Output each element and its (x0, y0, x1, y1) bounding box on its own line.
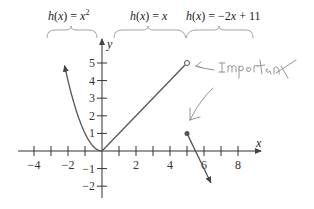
closed-point (185, 131, 190, 136)
y-tick-label: 2 (89, 109, 95, 123)
y-axis-label: y (106, 37, 113, 51)
handwritten-text-important (219, 60, 296, 78)
open-point (185, 61, 190, 66)
curve-piece-2 (102, 65, 185, 151)
y-tick-label: 5 (89, 56, 95, 70)
x-tick-label: 2 (133, 158, 139, 172)
curve-piece-3 (187, 133, 211, 182)
x-tick-label: 8 (235, 158, 241, 172)
label-piece-3: h(x) = −2x + 11 (186, 9, 261, 23)
ticks: −4−2246854321−1−2 (28, 56, 241, 193)
handwritten-arrow-to-closed-point (190, 88, 213, 120)
y-tick-label: 4 (89, 74, 95, 88)
y-tick-label: −1 (82, 162, 95, 176)
y-tick-label: 3 (89, 91, 95, 105)
y-tick-label: 1 (89, 126, 95, 140)
handwritten-important-annotation (196, 60, 296, 78)
x-tick-label: −2 (62, 158, 75, 172)
x-tick-label: −4 (28, 158, 41, 172)
brace-piece-2 (114, 26, 186, 38)
label-piece-1: h(x) = x2 (48, 8, 89, 23)
curve-piece-1 (65, 66, 102, 151)
piecewise-function-graph: h(x) = x2 h(x) = x h(x) = −2x + 11 −4−22… (0, 0, 314, 209)
x-axis-label: x (255, 136, 262, 150)
label-piece-2: h(x) = x (130, 9, 168, 23)
brace-piece-3 (186, 26, 253, 38)
y-tick-label: −2 (82, 179, 95, 193)
x-tick-label: 4 (167, 158, 173, 172)
brace-piece-1 (47, 26, 97, 38)
handwritten-arrow-left-icon (196, 62, 214, 70)
